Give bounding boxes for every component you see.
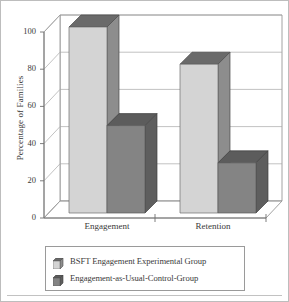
bar-front-face [180,64,218,213]
bar-front-face [218,163,256,213]
bar-chart-3d [1,1,289,239]
legend-label-control: Engagement-as-Usual-Control-Group [70,273,198,283]
chart-plot-area: Percentage of Families 0 20 40 60 80 100… [1,1,289,239]
left-wall [44,15,60,218]
bar-front-face [107,126,145,213]
legend-swatch-light-icon [53,255,64,266]
y-tick-label-100: 100 [12,26,36,36]
figure-container: Percentage of Families 0 20 40 60 80 100… [0,0,289,302]
y-tick-label-80: 80 [12,63,36,73]
legend-swatch-dark-icon [53,272,64,283]
bar-retention-control[interactable] [218,151,268,213]
x-tick-label-retention: Retention [173,221,253,231]
y-tick-label-60: 60 [12,100,36,110]
bar-engagement-control[interactable] [107,114,157,213]
legend-item-control[interactable]: Engagement-as-Usual-Control-Group [53,269,237,286]
y-tick-label-0: 0 [12,212,36,222]
legend-label-bsft: BSFT Engagement Experimental Group [70,256,206,266]
legend-item-bsft[interactable]: BSFT Engagement Experimental Group [53,252,237,269]
bottom-divider [7,295,282,296]
y-tick-label-40: 40 [12,138,36,148]
bar-front-face [69,27,107,213]
y-tick-label-20: 20 [12,175,36,185]
y-axis [40,32,44,218]
x-tick-label-engagement: Engagement [67,221,147,231]
chart-legend: BSFT Engagement Experimental Group Engag… [45,246,245,291]
bar-side-face [145,114,157,213]
